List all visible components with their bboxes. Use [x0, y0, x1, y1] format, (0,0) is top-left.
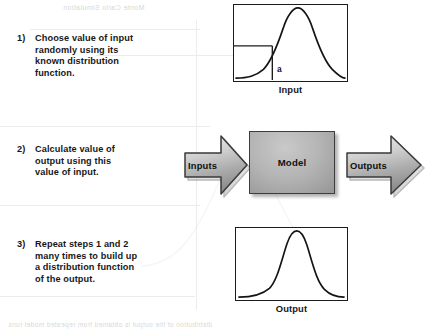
step-item-3: 3) Repeat steps 1 and 2 many times to bu… — [17, 239, 163, 285]
model-box-label: Model — [278, 157, 307, 168]
input-plot-caption: Input — [233, 84, 348, 95]
input-distribution-curve-svg — [234, 5, 347, 81]
bleed-rule-lower — [0, 205, 200, 206]
step-number: 2) — [17, 144, 35, 156]
outputs-arrow: Outputs — [345, 133, 423, 197]
input-sample-annotation-label: a — [277, 64, 282, 74]
bleed-rule-bottom — [0, 296, 195, 297]
bleed-rule-mid — [0, 126, 210, 127]
inputs-arrow-label: Inputs — [188, 160, 217, 171]
step-number: 1) — [17, 33, 35, 45]
step-text: Choose value of input randomly using its… — [35, 33, 163, 79]
model-box: Model — [249, 131, 335, 194]
input-curve-path — [236, 8, 345, 78]
step-number: 3) — [17, 239, 35, 251]
step-text: Calculate value of output using this val… — [35, 144, 163, 179]
step-item-1: 1) Choose value of input randomly using … — [17, 33, 163, 79]
inputs-arrow: Inputs — [183, 133, 249, 197]
output-distribution-plot — [235, 227, 348, 301]
output-curve-path — [239, 231, 344, 297]
step-text: Repeat steps 1 and 2 many times to build… — [35, 239, 163, 285]
outputs-arrow-label: Outputs — [350, 160, 387, 171]
output-distribution-curve-svg — [236, 228, 347, 300]
diagram-canvas: Monte Carlo Simulation distribution of t… — [0, 0, 425, 333]
output-plot-caption: Output — [235, 303, 348, 314]
top-bleed-artifact: Monte Carlo Simulation — [63, 4, 145, 11]
bleed-rule-top — [30, 29, 200, 30]
step-item-2: 2) Calculate value of output using this … — [17, 144, 163, 179]
input-distribution-plot — [233, 4, 348, 82]
bottom-bleed-artifact: distribution of the output is obtained f… — [8, 321, 212, 328]
